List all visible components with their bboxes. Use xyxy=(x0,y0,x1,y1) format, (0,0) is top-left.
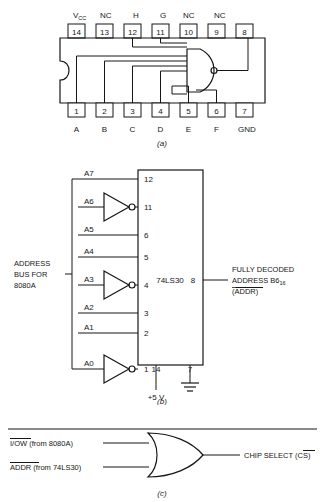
label-a5: A5 xyxy=(84,225,94,234)
pin-num-5: 5 xyxy=(186,107,191,116)
inverter-a0 xyxy=(104,355,129,383)
pin-num-7: 7 xyxy=(242,107,247,116)
pin-num-3: 3 xyxy=(130,107,135,116)
bottom-pin-label-group: A B C D E F GND xyxy=(74,125,256,134)
figure-c-chip-select: I/OW (from 8080A) ADDR (from 74LS30) CHI… xyxy=(0,420,325,502)
wire-pin4 xyxy=(161,71,188,103)
or-input-1: I/OW (from 8080A) xyxy=(10,439,149,449)
pin12-label: H xyxy=(133,11,139,20)
pin6-label: F xyxy=(214,125,219,134)
pin9-label: NC xyxy=(214,11,226,20)
inverter-a3 xyxy=(104,271,129,299)
top-pin-label-group: VCC NC H G NC NC xyxy=(73,11,226,21)
input1-label: I/OW (from 8080A) xyxy=(10,439,73,448)
pin5-label: E xyxy=(186,125,191,134)
wire-pin5 xyxy=(172,86,189,103)
nand-gate-symbol xyxy=(187,38,248,92)
chip-74ls30-label: 74LS30 xyxy=(156,276,184,285)
or-gate-symbol xyxy=(148,433,240,477)
address-bus-bracket xyxy=(65,179,78,369)
bus-label-line2: BUS FOR xyxy=(14,270,48,279)
chip-select-svg: I/OW (from 8080A) ADDR (from 74LS30) CHI… xyxy=(0,420,325,502)
pin14-label: VCC xyxy=(73,11,86,21)
pin-num-6: 6 xyxy=(214,107,219,116)
chip-select-output-label: CHIP SELECT (CS) xyxy=(244,451,315,461)
pin-num-10: 10 xyxy=(184,28,193,37)
figure-b-logic-diagram: 74LS30 ADDRESS BUS FOR 8080A A7 12 A6 11… xyxy=(0,155,325,405)
label-a1: A1 xyxy=(84,323,94,332)
top-pin-boxes: 14 13 12 11 10 9 8 xyxy=(68,24,253,38)
or-gate-body xyxy=(148,433,203,477)
pin13-label: NC xyxy=(100,11,112,20)
pin3-label: C xyxy=(130,125,136,134)
pin-num-12: 12 xyxy=(128,28,137,37)
figure-a-dip-package: VCC NC H G NC NC 14 13 12 11 10 9 8 xyxy=(0,0,325,150)
pin-num-2-b: 2 xyxy=(144,329,149,338)
output-label-line3: (ADDR) xyxy=(232,287,259,296)
pin-num-12-b: 12 xyxy=(144,175,153,184)
or-input-2: ADDR (from 74LS30) xyxy=(10,463,149,473)
output-label-line1: FULLY DECODED xyxy=(232,265,295,274)
pin-num-8-b: 8 xyxy=(191,276,196,285)
input2-label: ADDR (from 74LS30) xyxy=(10,463,82,472)
caption-b: (b) xyxy=(157,397,167,405)
caption-c: (c) xyxy=(157,489,167,498)
label-a0: A0 xyxy=(84,359,94,368)
wire-pin2 xyxy=(105,61,188,103)
pin-num-4-b: 4 xyxy=(144,281,149,290)
bottom-pin-boxes: 1 2 3 4 5 6 7 xyxy=(68,103,253,117)
output-text: CHIP SELECT (CS) xyxy=(244,451,311,460)
pin7-label: GND xyxy=(238,125,256,134)
bus-label-line1: ADDRESS xyxy=(14,259,50,268)
pin-num-2: 2 xyxy=(102,107,107,116)
label-a3: A3 xyxy=(84,275,94,284)
output-label-line2: ADDRESS B616 xyxy=(232,276,286,286)
label-a6: A6 xyxy=(84,197,94,206)
pin2-label: B xyxy=(102,125,107,134)
inverter-a6 xyxy=(104,193,129,221)
pin-num-11: 11 xyxy=(156,28,165,37)
pin-num-1-b: 1 xyxy=(144,365,149,374)
wire-pin3 xyxy=(133,66,188,103)
wire-pin1 xyxy=(77,56,188,103)
caption-a: (a) xyxy=(157,139,167,148)
pin-num-4: 4 xyxy=(158,107,163,116)
address-bus-label: ADDRESS BUS FOR 8080A xyxy=(14,259,50,290)
pin-num-1: 1 xyxy=(74,107,79,116)
bus-label-line3: 8080A xyxy=(14,281,36,290)
chip-output-group: 8 FULLY DECODED ADDRESS B616 (ADDR) xyxy=(191,265,295,296)
label-a4: A4 xyxy=(84,247,94,256)
pin-num-13: 13 xyxy=(100,28,109,37)
label-a2: A2 xyxy=(84,303,94,312)
logic-diagram-svg: 74LS30 ADDRESS BUS FOR 8080A A7 12 A6 11… xyxy=(0,155,325,405)
pin1-label: A xyxy=(74,125,80,134)
dip-package-svg: VCC NC H G NC NC 14 13 12 11 10 9 8 xyxy=(0,0,325,150)
pin-num-6-b: 6 xyxy=(144,231,149,240)
label-a7: A7 xyxy=(84,169,94,178)
pin-num-11-b: 11 xyxy=(144,203,153,212)
bracket-path xyxy=(72,179,78,369)
wire-pin11 xyxy=(161,38,188,43)
pin-num-9: 9 xyxy=(214,28,219,37)
address-line-a7: A7 12 xyxy=(78,169,153,184)
pin11-label: G xyxy=(160,11,166,20)
ground-symbol-icon xyxy=(181,383,199,391)
pin-num-14: 14 xyxy=(72,28,81,37)
pin-num-8: 8 xyxy=(242,28,247,37)
address-line-a6: A6 11 xyxy=(78,193,153,221)
dip-internal-wiring xyxy=(77,38,217,103)
pin10-label: NC xyxy=(183,11,195,20)
nand-gate-body xyxy=(187,49,214,92)
ground-group: 7 xyxy=(181,365,199,391)
pin4-label: D xyxy=(158,125,164,134)
pin-num-3-b: 3 xyxy=(144,309,149,318)
pin-num-5-b: 5 xyxy=(144,253,149,262)
